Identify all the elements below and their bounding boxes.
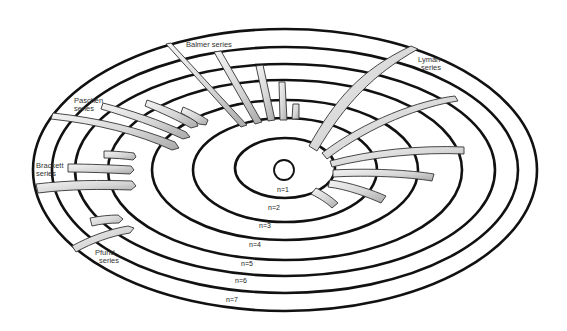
orbit-label-n4: n=4: [249, 241, 261, 248]
brackett-series-label-line2: series: [36, 169, 56, 178]
orbit-label-n5: n=5: [241, 260, 253, 267]
hydrogen-spectral-series-diagram: Balmer series Lyman series Paschen serie…: [0, 0, 567, 331]
balmer-series-label: Balmer series: [186, 40, 232, 49]
paschen-series-label-line2: series: [74, 104, 94, 113]
pfund-series-label-line2: series: [99, 256, 119, 265]
orbit-label-n7: n=7: [226, 296, 238, 303]
orbit-labels: n=1 n=2 n=3 n=4 n=5 n=6 n=7: [226, 186, 289, 303]
lyman-series-label-line2: series: [421, 63, 441, 72]
nucleus-icon: [274, 160, 294, 180]
orbit-label-n2: n=2: [268, 204, 280, 211]
orbit-label-n3: n=3: [259, 222, 271, 229]
orbit-label-n1: n=1: [277, 186, 289, 193]
orbit-label-n6: n=6: [235, 277, 247, 284]
